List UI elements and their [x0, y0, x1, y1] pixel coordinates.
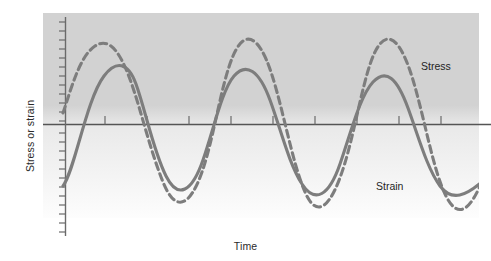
y-axis-label: Stress or strain — [24, 76, 36, 196]
stress-curve-label: Stress — [421, 60, 451, 72]
plot-area — [0, 0, 491, 261]
strain-curve-label: Strain — [376, 180, 403, 192]
stress-strain-figure: Stress or strain Time Stress Strain — [0, 0, 491, 261]
x-axis-label: Time — [0, 240, 491, 252]
plot-panel-background — [43, 13, 479, 218]
